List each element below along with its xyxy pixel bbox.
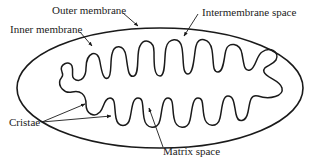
label-intermembrane-space: Intermembrane space: [202, 7, 296, 18]
cristae-leader-upper: [42, 104, 85, 122]
label-outer-membrane: Outer membrane: [52, 5, 126, 16]
label-inner-membrane: Inner membrane: [10, 24, 82, 35]
mitochondrion-diagram: Outer membrane Intermembrane space Inner…: [0, 0, 309, 164]
label-cristae: Cristae: [9, 117, 40, 128]
cristae-leader-lower: [42, 116, 111, 122]
outer-membrane: [17, 28, 303, 148]
label-matrix-space: Matrix space: [163, 146, 220, 157]
intermembrane-space-leader: [184, 14, 198, 36]
inner-membrane: [60, 40, 283, 128]
